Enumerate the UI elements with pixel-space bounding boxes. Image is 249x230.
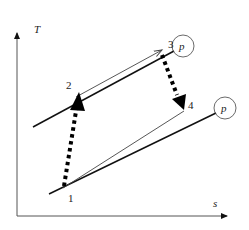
state-1-label: 1	[68, 192, 74, 204]
arrowhead-2	[70, 92, 85, 111]
ts-diagram: T s p p 1 2 3 4	[0, 0, 249, 230]
process-3-4	[162, 55, 177, 95]
state-3-label: 3	[168, 38, 174, 50]
y-axis-label: T	[34, 23, 41, 35]
x-axis-label: s	[213, 197, 217, 209]
arrowhead-4	[172, 94, 186, 110]
state-2-label: 2	[66, 79, 72, 91]
process-1-4	[63, 111, 184, 188]
process-1-2	[64, 105, 77, 186]
process-2-3	[76, 50, 162, 97]
high-pressure-isobar	[33, 51, 174, 127]
high-pressure-label: p	[178, 40, 185, 52]
low-pressure-label: p	[220, 102, 227, 114]
low-pressure-isobar	[49, 113, 216, 194]
state-4-label: 4	[188, 99, 194, 111]
